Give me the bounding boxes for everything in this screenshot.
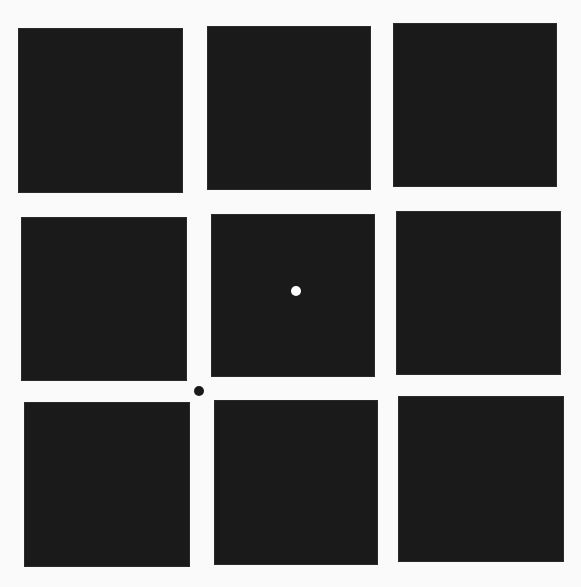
white-dot-icon	[291, 286, 301, 296]
square-r3c1	[24, 402, 190, 567]
stimulus-canvas	[0, 0, 581, 587]
square-r2c1	[21, 217, 187, 381]
square-r2c3	[396, 211, 561, 375]
square-r3c2	[214, 400, 378, 565]
black-dot-icon	[194, 386, 204, 396]
square-r1c1	[18, 28, 183, 193]
square-r3c3	[398, 396, 564, 562]
square-r1c3	[393, 23, 557, 187]
square-r1c2	[207, 26, 371, 190]
